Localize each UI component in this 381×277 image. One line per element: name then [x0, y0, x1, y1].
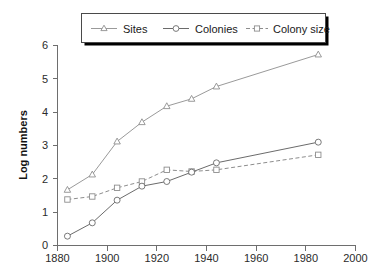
y-tick-label-5: 5 [42, 73, 48, 85]
y-axis: 6 5 4 3 2 1 0 Log numbers [17, 39, 58, 251]
colonies-markers [64, 139, 321, 239]
x-tick-label-1960: 1960 [244, 252, 268, 264]
circle-icon [173, 26, 179, 32]
legend-label-colonies: Colonies [195, 23, 238, 35]
y-axis-title: Log numbers [17, 110, 29, 180]
y-tick-label-0: 0 [42, 239, 48, 251]
square-icon [114, 185, 119, 190]
series-colonies [64, 139, 321, 239]
circle-icon [139, 183, 145, 189]
chart-figure: 6 5 4 3 2 1 0 Log numbers 1880 1900 1920… [0, 0, 381, 277]
circle-icon [114, 197, 120, 203]
chart-legend: Sites Colonies Colony size [82, 14, 330, 46]
triangle-icon [114, 138, 120, 144]
x-axis: 1880 1900 1920 1940 1960 1980 2000 [45, 246, 367, 265]
circle-icon [64, 233, 70, 239]
x-tick-label-1980: 1980 [294, 252, 318, 264]
triangle-icon [315, 51, 321, 57]
triangle-icon [139, 119, 145, 125]
x-tick-label-1920: 1920 [145, 252, 169, 264]
line-chart: 6 5 4 3 2 1 0 Log numbers 1880 1900 1920… [0, 0, 381, 277]
x-tick-label-1880: 1880 [45, 252, 69, 264]
square-icon [90, 194, 95, 199]
colony-size-line [67, 155, 318, 200]
y-tick-label-4: 4 [42, 106, 48, 118]
legend-label-colony-size: Colony size [273, 23, 330, 35]
circle-icon [189, 169, 195, 175]
colonies-line [67, 142, 318, 236]
circle-icon [89, 220, 95, 226]
y-tick-label-1: 1 [42, 206, 48, 218]
square-icon [214, 167, 219, 172]
x-tick-label-2000: 2000 [343, 252, 367, 264]
y-tick-label-6: 6 [42, 39, 48, 51]
circle-icon [164, 179, 170, 185]
circle-icon [213, 160, 219, 166]
circle-icon [315, 139, 321, 145]
square-icon [65, 197, 70, 202]
legend-label-sites: Sites [123, 23, 148, 35]
square-icon [254, 26, 259, 31]
x-tick-label-1900: 1900 [95, 252, 119, 264]
square-icon [164, 167, 169, 172]
square-icon [316, 152, 321, 157]
x-tick-label-1940: 1940 [194, 252, 218, 264]
y-tick-label-3: 3 [42, 139, 48, 151]
y-tick-label-2: 2 [42, 173, 48, 185]
triangle-icon [188, 95, 194, 101]
triangle-icon [64, 186, 70, 192]
